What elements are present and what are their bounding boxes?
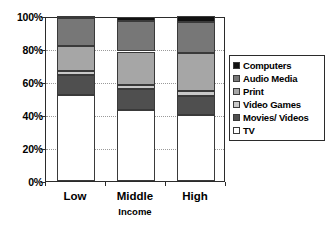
legend-swatch-icon (233, 88, 240, 95)
x-category-label-low: Low (45, 190, 105, 202)
chart-legend: ComputersAudio MediaPrintVideo GamesMovi… (229, 55, 325, 141)
y-tick-label: 0% (3, 177, 43, 187)
bar-group-high (177, 18, 215, 181)
legend-label: Video Games (243, 99, 301, 110)
bar-segment-movies-videos (117, 89, 155, 110)
legend-label: Print (243, 86, 264, 97)
x-category-label-high: High (165, 190, 225, 202)
legend-item-print: Print (233, 85, 322, 98)
bar-segment-video-games (177, 91, 215, 96)
stacked-bar (117, 18, 155, 181)
y-tick-label: 40% (3, 111, 43, 121)
stacked-bar (177, 18, 215, 181)
bar-segment-tv (117, 110, 155, 181)
bar-group-middle (117, 18, 155, 181)
bar-segment-computers (177, 16, 215, 22)
bar-segment-movies-videos (57, 75, 95, 95)
y-tick-label: 100% (3, 12, 43, 22)
legend-swatch-icon (233, 114, 240, 121)
x-axis: Income LowMiddleHigh (45, 182, 225, 226)
legend-label: Computers (243, 60, 291, 71)
x-tick-mark (225, 182, 226, 186)
bar-segment-video-games (117, 85, 155, 88)
legend-item-computers: Computers (233, 59, 322, 72)
stacked-bar (57, 18, 95, 181)
legend-item-movies-videos: Movies/ Videos (233, 111, 322, 124)
legend-swatch-icon (233, 127, 240, 134)
y-tick-label: 80% (3, 45, 43, 55)
bar-segment-tv (57, 95, 95, 181)
bar-segment-tv (177, 115, 215, 181)
bar-segment-computers (117, 17, 155, 21)
legend-item-video-games: Video Games (233, 98, 322, 111)
bar-group-low (57, 18, 95, 181)
legend-label: TV (243, 125, 255, 136)
bar-segment-movies-videos (177, 96, 215, 115)
legend-label: Movies/ Videos (243, 112, 309, 123)
legend-swatch-icon (233, 101, 240, 108)
legend-item-tv: TV (233, 124, 322, 137)
bar-segment-audio-media (117, 21, 155, 52)
bar-segment-computers (57, 16, 95, 18)
plot-area (45, 17, 225, 182)
legend-item-audio-media: Audio Media (233, 72, 322, 85)
y-axis: 0%20%40%60%80%100% (0, 17, 43, 182)
x-category-label-middle: Middle (105, 190, 165, 202)
bar-segment-print (117, 52, 155, 86)
x-tick-mark (45, 182, 46, 186)
x-tick-mark (165, 182, 166, 186)
stacked-bar-chart: 0%20%40%60%80%100% Income LowMiddleHigh … (0, 0, 328, 226)
bar-segment-print (57, 46, 95, 72)
legend-swatch-icon (233, 75, 240, 82)
y-tick-label: 20% (3, 144, 43, 154)
bar-segment-video-games (57, 71, 95, 75)
bar-segment-audio-media (177, 22, 215, 53)
x-tick-mark (105, 182, 106, 186)
legend-swatch-icon (233, 62, 240, 69)
y-tick-label: 60% (3, 78, 43, 88)
legend-label: Audio Media (243, 73, 297, 84)
x-axis-title: Income (45, 206, 225, 217)
bar-segment-audio-media (57, 18, 95, 46)
bar-segment-print (177, 53, 215, 91)
